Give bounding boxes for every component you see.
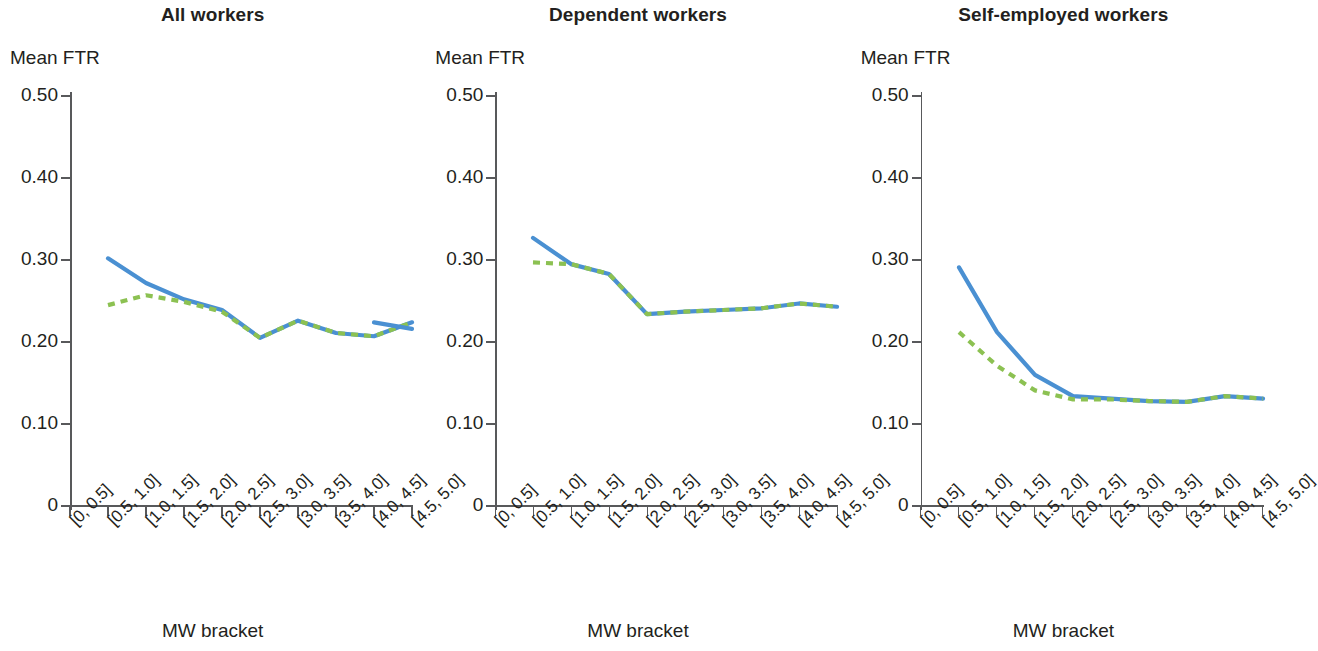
x-axis-title: MW bracket bbox=[851, 620, 1276, 642]
x-axis-title: MW bracket bbox=[0, 620, 425, 642]
panel-self-employed-workers: Self-employed workers Mean FTR 0.500.400… bbox=[851, 0, 1276, 651]
series-group bbox=[425, 0, 850, 651]
x-axis-title: MW bracket bbox=[425, 620, 850, 642]
dashed-green-line bbox=[108, 295, 412, 338]
solid-blue-line bbox=[108, 258, 412, 338]
series-group bbox=[0, 0, 425, 651]
panel-all-workers: All workers Mean FTR 0.500.400.300.200.1… bbox=[0, 0, 425, 651]
series-group bbox=[851, 0, 1276, 651]
dashed-green-line bbox=[533, 262, 837, 314]
solid-blue-line bbox=[959, 267, 1263, 401]
panel-dependent-workers: Dependent workers Mean FTR 0.500.400.300… bbox=[425, 0, 850, 651]
